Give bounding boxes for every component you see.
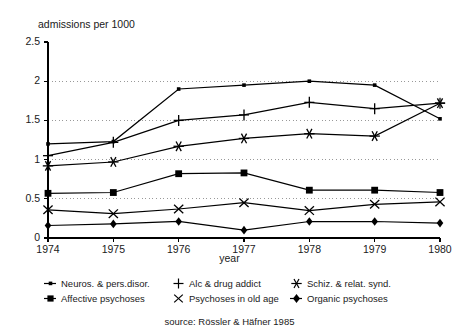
x-axis-tick-label: 1980 — [418, 244, 459, 255]
legend-item-organic-psychoses: Organic psychoses — [290, 293, 388, 304]
legend-label: Schiz. & relat. synd. — [307, 278, 391, 289]
plus-icon — [172, 278, 185, 289]
small-dot-icon — [44, 278, 57, 289]
legend-label: Affective psychoses — [61, 293, 145, 304]
legend-row-1: Neuros. & pers.disor. Alc & drug addict … — [44, 276, 444, 291]
y-axis-tick-label: 0.5 — [10, 193, 40, 203]
legend-item-neuros-pers-disor: Neuros. & pers.disor. — [44, 278, 172, 289]
y-axis-tick-label: 0 — [10, 232, 40, 242]
y-axis-tick-label: 2.5 — [10, 36, 40, 46]
filled-diamond-icon — [290, 293, 303, 304]
legend-item-schiz-relat-synd: Schiz. & relat. synd. — [290, 278, 391, 289]
asterisk-icon — [290, 278, 303, 289]
x-cross-icon — [172, 293, 185, 304]
x-axis-tick-label: 1976 — [157, 244, 201, 255]
source-note: source: Rössler & Häfner 1985 — [0, 316, 459, 327]
legend-item-affective-psychoses: Affective psychoses — [44, 293, 172, 304]
chart-legend: Neuros. & pers.disor. Alc & drug addict … — [44, 276, 444, 306]
legend-row-2: Affective psychoses Psychoses in old age… — [44, 291, 444, 306]
legend-item-psychoses-in-old-age: Psychoses in old age — [172, 293, 290, 304]
y-axis-tick-label: 1.5 — [10, 114, 40, 124]
x-axis-tick-label: 1979 — [353, 244, 397, 255]
legend-item-alc-drug-addict: Alc & drug addict — [172, 278, 290, 289]
chart-figure: admissions per 1000 year Neuros. & pers.… — [0, 0, 459, 335]
x-axis-tick-label: 1975 — [91, 244, 135, 255]
legend-label: Organic psychoses — [307, 293, 388, 304]
filled-square-icon — [44, 293, 57, 304]
x-axis-tick-label: 1977 — [222, 244, 266, 255]
legend-label: Alc & drug addict — [189, 278, 261, 289]
legend-label: Psychoses in old age — [189, 293, 279, 304]
legend-label: Neuros. & pers.disor. — [61, 278, 150, 289]
y-axis-tick-label: 2 — [10, 75, 40, 85]
x-axis-tick-label: 1974 — [26, 244, 70, 255]
x-axis-tick-label: 1978 — [287, 244, 331, 255]
y-axis-tick-label: 1 — [10, 154, 40, 164]
